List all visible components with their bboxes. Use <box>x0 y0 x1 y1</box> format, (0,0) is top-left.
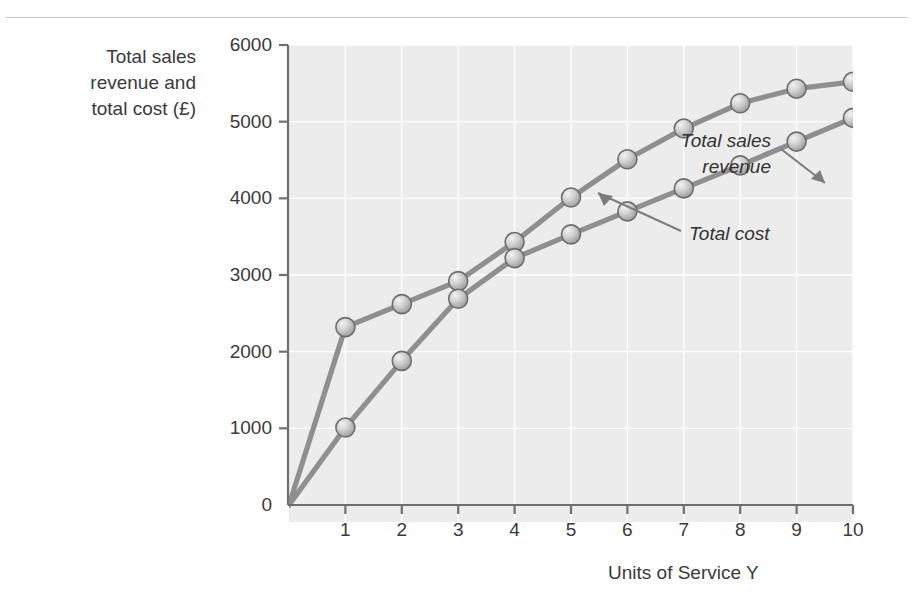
data-point-marker <box>336 318 355 337</box>
plot-area: Total salesrevenueTotal cost <box>289 45 853 522</box>
y-axis-label-line-1: Total sales <box>44 44 196 70</box>
y-tick-label: 3000 <box>194 264 272 286</box>
x-tick-label: 6 <box>607 519 647 541</box>
annotation-total-cost: Total cost <box>689 223 770 244</box>
data-point-marker <box>449 272 468 291</box>
x-tick-label: 3 <box>438 519 478 541</box>
chart-figure: Total sales revenue and total cost (£) 0… <box>0 0 914 605</box>
data-point-marker <box>449 289 468 308</box>
data-point-marker <box>392 351 411 370</box>
data-point-marker <box>787 79 806 98</box>
annotation-total-sales-revenue-line-2: revenue <box>702 156 771 177</box>
data-point-marker <box>787 132 806 151</box>
data-point-marker <box>844 108 854 127</box>
data-point-marker <box>844 72 854 91</box>
data-point-marker <box>618 202 637 221</box>
data-point-markers <box>336 72 853 437</box>
annotation-arrowhead-total-sales-revenue <box>811 170 825 183</box>
top-divider-rule <box>6 17 908 18</box>
y-axis-label: Total sales revenue and total cost (£) <box>44 44 196 122</box>
grid-lines <box>289 45 853 522</box>
x-tick-label: 10 <box>833 519 873 541</box>
y-axis-label-line-3: total cost (£) <box>44 96 196 122</box>
y-tick-label: 0 <box>194 494 272 516</box>
x-tick-label: 2 <box>382 519 422 541</box>
data-point-marker <box>336 418 355 437</box>
y-tick-label: 4000 <box>194 187 272 209</box>
x-axis-label: Units of Service Y <box>608 562 759 584</box>
y-axis-label-line-2: revenue and <box>44 70 196 96</box>
y-tick-label: 5000 <box>194 111 272 133</box>
y-tick-label: 6000 <box>194 34 272 56</box>
annotation-total-sales-revenue-line-1: Total sales <box>681 130 772 151</box>
data-point-marker <box>618 150 637 169</box>
x-tick-label: 7 <box>664 519 704 541</box>
plot-svg: Total salesrevenueTotal cost <box>289 45 853 522</box>
data-point-marker <box>731 94 750 113</box>
x-tick-label: 4 <box>495 519 535 541</box>
data-point-marker <box>505 249 524 268</box>
x-tick-label: 9 <box>777 519 817 541</box>
data-point-marker <box>562 188 581 207</box>
x-tick-label: 1 <box>325 519 365 541</box>
data-point-marker <box>392 295 411 314</box>
y-tick-label: 1000 <box>194 417 272 439</box>
x-tick-label: 8 <box>720 519 760 541</box>
data-point-marker <box>674 179 693 198</box>
x-tick-label: 5 <box>551 519 591 541</box>
data-point-marker <box>562 225 581 244</box>
y-tick-label: 2000 <box>194 341 272 363</box>
